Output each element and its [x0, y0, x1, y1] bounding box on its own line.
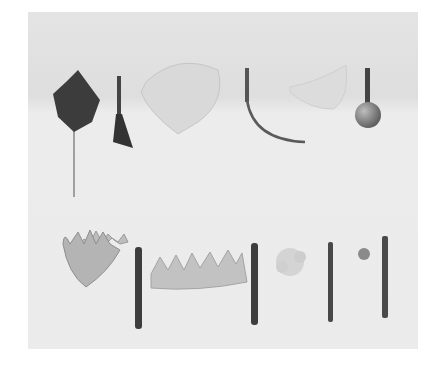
tool-photograph: Grayscale photograph of flower-making to… — [28, 12, 418, 349]
tiny-flower — [358, 248, 370, 260]
rod-tool — [135, 247, 142, 329]
rod-tool-2 — [251, 243, 258, 325]
thin-rod-tool-2 — [382, 236, 388, 318]
thin-rod-tool — [328, 242, 333, 322]
photo-content — [28, 12, 418, 349]
